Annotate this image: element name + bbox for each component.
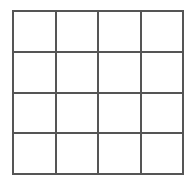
grid-cell[interactable] [13, 133, 56, 174]
grid-table [12, 10, 184, 175]
grid-cell[interactable] [56, 11, 99, 52]
grid-row [13, 52, 183, 93]
grid-row [13, 11, 183, 52]
grid-cell[interactable] [13, 93, 56, 134]
grid-cell[interactable] [98, 133, 141, 174]
grid-cell[interactable] [141, 52, 184, 93]
grid-cell[interactable] [141, 11, 184, 52]
grid-cell[interactable] [13, 52, 56, 93]
grid-cell[interactable] [13, 11, 56, 52]
grid-cell[interactable] [141, 93, 184, 134]
grid-cell[interactable] [56, 93, 99, 134]
grid-figure [0, 0, 196, 190]
grid-row [13, 133, 183, 174]
grid-cell[interactable] [98, 11, 141, 52]
grid-row [13, 93, 183, 134]
grid-body [13, 11, 183, 174]
grid-cell[interactable] [98, 52, 141, 93]
grid-cell[interactable] [98, 93, 141, 134]
grid-cell[interactable] [56, 52, 99, 93]
grid-cell[interactable] [141, 133, 184, 174]
grid-cell[interactable] [56, 133, 99, 174]
